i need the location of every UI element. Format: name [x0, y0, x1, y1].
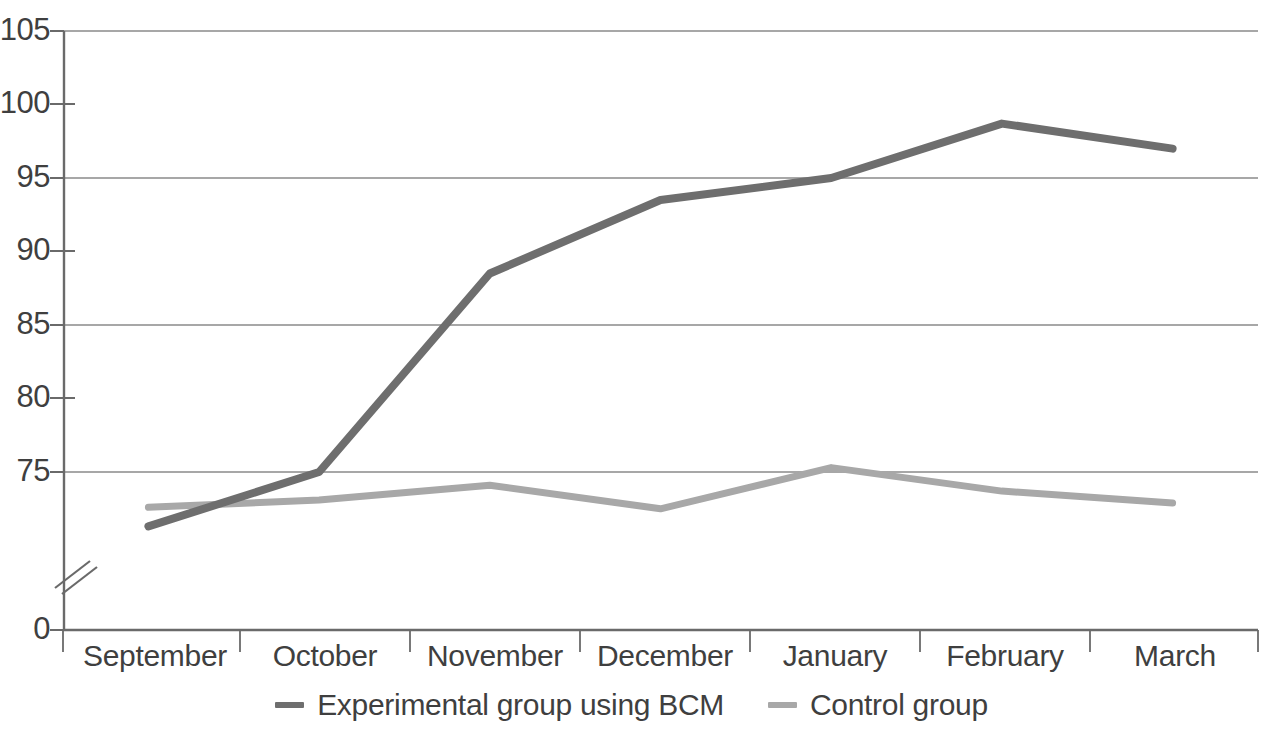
- y-axis-label-75: 75: [0, 453, 50, 489]
- y-axis-label-85: 85: [0, 306, 50, 342]
- axis-break-icon: [55, 561, 97, 594]
- line-chart: 105 100 95 90 85 80 75 0 September Octob…: [0, 0, 1263, 748]
- y-axis-label-95: 95: [0, 159, 50, 195]
- legend-entry-experimental[interactable]: Experimental group using BCM: [275, 688, 724, 722]
- y-axis-label-90: 90: [0, 232, 50, 268]
- y-axis-label-105: 105: [0, 12, 50, 48]
- y-axis-label-80: 80: [0, 379, 50, 415]
- legend-label-experimental: Experimental group using BCM: [317, 688, 724, 722]
- legend-swatch-experimental: [275, 702, 304, 708]
- plot-area: [0, 0, 1263, 748]
- legend-label-control: Control group: [810, 688, 988, 722]
- gridlines: [63, 31, 1258, 472]
- y-minor-ticks: [50, 31, 75, 630]
- y-axis-label-100: 100: [0, 85, 50, 121]
- legend-swatch-control: [768, 702, 797, 708]
- x-axis-label-march: March: [1055, 639, 1263, 673]
- legend-entry-control[interactable]: Control group: [768, 688, 988, 722]
- chart-legend: Experimental group using BCM Control gro…: [0, 688, 1263, 722]
